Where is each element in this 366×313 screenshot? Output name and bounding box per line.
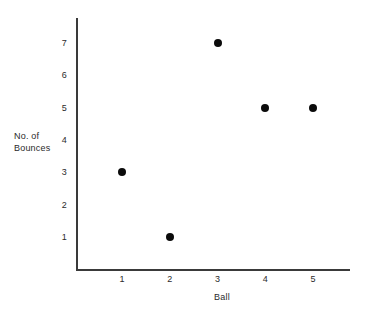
y-axis-line [76,18,78,270]
x-tick-label: 3 [208,274,228,284]
x-tick-label: 4 [255,274,275,284]
data-point [261,104,269,112]
y-tick-label: 5 [62,103,67,113]
x-tick-label: 2 [160,274,180,284]
y-tick-label: 4 [62,135,67,145]
y-tick-label: 3 [62,167,67,177]
data-point [214,39,222,47]
data-point [166,233,174,241]
y-tick-label: 2 [62,200,67,210]
y-tick-label: 1 [62,232,67,242]
x-tick-label: 1 [112,274,132,284]
x-axis-title: Ball [182,292,262,302]
y-tick-label: 7 [62,38,67,48]
scatter-plot-figure: 1234567 12345 No. of Bounces Ball [0,0,366,313]
x-axis-line [76,269,350,271]
y-tick-label: 6 [62,70,67,80]
data-point [118,168,126,176]
data-point [309,104,317,112]
x-tick-label: 5 [303,274,323,284]
y-axis-title: No. of Bounces [14,131,50,154]
